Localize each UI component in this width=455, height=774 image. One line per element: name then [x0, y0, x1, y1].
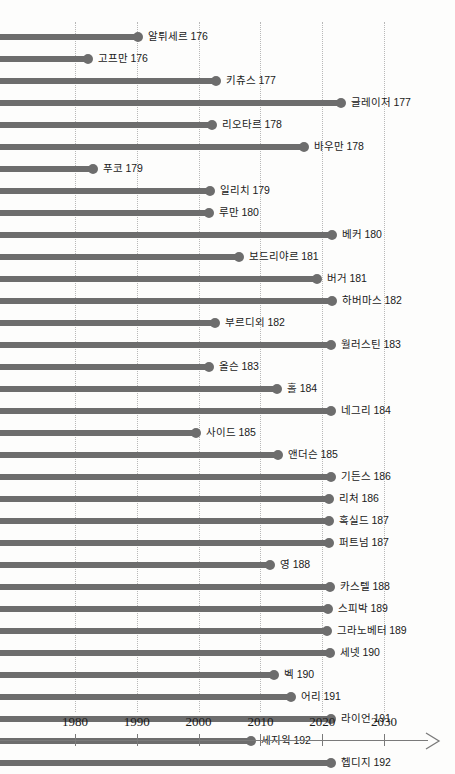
x-axis-tick-label-2010: 2010: [247, 714, 273, 730]
bar-label: 카스텔 188: [340, 579, 390, 593]
bar-label: 키츄스 177: [226, 73, 276, 87]
bar-label: 바우만 178: [314, 139, 364, 153]
bar-label: 부르디외 182: [225, 315, 285, 329]
bar-row: 스피박 189: [0, 601, 455, 619]
bar: [0, 320, 217, 326]
bar-end-marker: [246, 736, 256, 746]
bar-end-marker: [210, 318, 220, 328]
x-axis-tick-2030: [384, 734, 385, 746]
bar-end-marker: [325, 582, 335, 592]
bar: [0, 408, 333, 414]
bar: [0, 298, 334, 304]
bar-row: 글레이저 177: [0, 95, 455, 113]
bar: [0, 452, 280, 458]
bar-row: 리처 186: [0, 491, 455, 509]
bar-end-marker: [324, 494, 334, 504]
bar-label: 리처 186: [339, 491, 379, 505]
bar-row: 월러스틴 183: [0, 337, 455, 355]
bar: [0, 188, 212, 194]
bar-end-marker: [234, 252, 244, 262]
bar-label: 퍼트넘 187: [339, 535, 389, 549]
bar-label: 세넷 190: [340, 645, 380, 659]
bar: [0, 166, 95, 172]
bar: [0, 540, 331, 546]
x-axis-tick-2010: [260, 734, 261, 746]
bar-label: 스피박 189: [338, 601, 388, 615]
bar-row: 어리 191: [0, 689, 455, 707]
bar-row: 세지윅 192: [0, 733, 455, 751]
bar-row: 보드리야르 181: [0, 249, 455, 267]
bar-label: 리오타르 178: [222, 117, 282, 131]
bar-end-marker: [326, 406, 336, 416]
bar-label: 벡 190: [284, 667, 314, 681]
bar-end-marker: [273, 450, 283, 460]
bar-label: 기든스 186: [341, 469, 391, 483]
bar-end-marker: [133, 32, 143, 42]
bar-row: 하버마스 182: [0, 293, 455, 311]
bar-label: 혹실드 187: [339, 513, 389, 527]
bar-end-marker: [324, 516, 334, 526]
bar: [0, 584, 332, 590]
bar-row: 혹실드 187: [0, 513, 455, 531]
bar-row: 버거 181: [0, 271, 455, 289]
bar-row: 알튀세르 176: [0, 29, 455, 47]
bar-row: 퍼트넘 187: [0, 535, 455, 553]
bar-label: 버거 181: [327, 271, 367, 285]
bar: [0, 628, 329, 634]
bar-row: 올슨 183: [0, 359, 455, 377]
bar-end-marker: [323, 604, 333, 614]
bar-label: 그라노베터 189: [337, 623, 407, 637]
bar-end-marker: [327, 230, 337, 240]
bar-end-marker: [286, 692, 296, 702]
bar: [0, 34, 140, 40]
bar-row: 리오타르 178: [0, 117, 455, 135]
bar: [0, 672, 276, 678]
bar: [0, 364, 211, 370]
bar-end-marker: [325, 648, 335, 658]
bar-label: 헵디지 192: [341, 755, 391, 769]
bar: [0, 56, 90, 62]
x-axis-tick-label-2020: 2020: [309, 714, 335, 730]
bar-label: 앤더슨 185: [288, 447, 338, 461]
bar-label: 푸코 179: [103, 161, 143, 175]
bar: [0, 562, 272, 568]
bar-label: 보드리야르 181: [249, 249, 319, 263]
bar-row: 홀 184: [0, 381, 455, 399]
bar-end-marker: [322, 626, 332, 636]
bar-end-marker: [312, 274, 322, 284]
bar-end-marker: [265, 560, 275, 570]
bar-label: 알튀세르 176: [148, 29, 208, 43]
x-axis-line: [0, 740, 428, 741]
timeline-bar-chart: 알튀세르 176고프만 176키츄스 177글레이저 177리오타르 178바우…: [0, 0, 455, 774]
bar: [0, 78, 218, 84]
bar-label: 어리 191: [301, 689, 341, 703]
bar: [0, 276, 319, 282]
bar: [0, 254, 241, 260]
bar: [0, 210, 211, 216]
bar-row: 네그리 184: [0, 403, 455, 421]
bar-row: 영 188: [0, 557, 455, 575]
bar-row: 그라노베터 189: [0, 623, 455, 641]
bar-label: 사이드 185: [206, 425, 256, 439]
x-axis-tick-2020: [322, 734, 323, 746]
bar-end-marker: [299, 142, 309, 152]
bar-end-marker: [205, 186, 215, 196]
bar-label: 고프만 176: [98, 51, 148, 65]
x-axis-tick-label-1980: 1980: [62, 714, 88, 730]
bar-end-marker: [204, 362, 214, 372]
x-axis-tick-label-2000: 2000: [186, 714, 212, 730]
bar-end-marker: [269, 670, 279, 680]
bar-row: 루만 180: [0, 205, 455, 223]
bar-end-marker: [88, 164, 98, 174]
x-axis-tick-label-2030: 2030: [371, 714, 397, 730]
bar-end-marker: [326, 472, 336, 482]
bar-label: 영 188: [280, 557, 310, 571]
bar-row: 벡 190: [0, 667, 455, 685]
bar: [0, 518, 331, 524]
bar-end-marker: [324, 538, 334, 548]
bar-row: 부르디외 182: [0, 315, 455, 333]
bar: [0, 232, 334, 238]
bar-label: 베커 180: [342, 227, 382, 241]
bar: [0, 342, 333, 348]
bar-row: 바우만 178: [0, 139, 455, 157]
